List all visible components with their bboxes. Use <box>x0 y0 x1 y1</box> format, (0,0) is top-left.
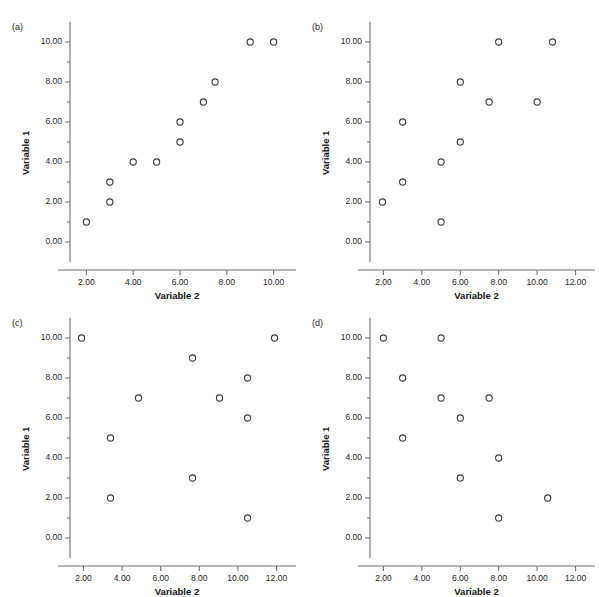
x-axis-tick-label: 6.00 <box>139 573 183 583</box>
data-point-marker <box>379 199 385 205</box>
y-axis-tick-label: 10.00 <box>316 36 362 46</box>
data-point-marker <box>400 119 406 125</box>
data-point-marker <box>244 415 250 421</box>
data-point-marker <box>83 219 89 225</box>
y-axis-tick-label: 0.00 <box>16 236 62 246</box>
data-point-marker <box>244 375 250 381</box>
data-point-marker <box>496 455 502 461</box>
x-axis-tick-label: 10.00 <box>515 277 559 287</box>
x-axis-tick-label: 8.00 <box>205 277 249 287</box>
data-point-marker <box>130 159 136 165</box>
x-axis-tick-label: 6.00 <box>438 277 482 287</box>
x-axis-tick-label: 6.00 <box>158 277 202 287</box>
y-axis-tick-label: 8.00 <box>16 372 62 382</box>
x-axis-tick-label: 12.00 <box>254 573 298 583</box>
y-axis-title: Variable 1 <box>20 427 31 471</box>
scatter-panel-c: (c)0.002.004.006.008.0010.002.004.006.00… <box>0 296 300 592</box>
y-axis-tick-label: 8.00 <box>16 76 62 86</box>
data-point-marker <box>200 99 206 105</box>
x-axis-tick-label: 2.00 <box>64 277 108 287</box>
y-axis-tick-label: 6.00 <box>16 116 62 126</box>
x-axis-tick-label: 2.00 <box>361 573 405 583</box>
data-point-marker <box>496 515 502 521</box>
data-point-marker <box>78 335 84 341</box>
x-axis-tick-label: 4.00 <box>111 277 155 287</box>
data-point-marker <box>438 159 444 165</box>
data-point-marker <box>457 79 463 85</box>
y-axis-tick-label: 0.00 <box>316 236 362 246</box>
data-point-marker <box>549 39 555 45</box>
x-axis-tick-label: 8.00 <box>177 573 221 583</box>
data-point-marker <box>496 39 502 45</box>
data-point-marker <box>457 139 463 145</box>
data-point-marker <box>212 79 218 85</box>
data-point-marker <box>534 99 540 105</box>
x-axis-tick-label: 8.00 <box>477 277 521 287</box>
x-axis-tick-label: 10.00 <box>515 573 559 583</box>
x-axis-tick-label: 8.00 <box>477 573 521 583</box>
y-axis-tick-label: 0.00 <box>316 532 362 542</box>
data-point-marker <box>438 395 444 401</box>
data-point-marker <box>189 355 195 361</box>
x-axis-tick-label: 6.00 <box>438 573 482 583</box>
x-axis-tick-label: 4.00 <box>400 277 444 287</box>
x-axis-tick-label: 12.00 <box>554 277 598 287</box>
y-axis-tick-label: 2.00 <box>316 492 362 502</box>
y-axis-tick-label: 10.00 <box>316 332 362 342</box>
x-axis-tick-label: 4.00 <box>400 573 444 583</box>
y-axis-tick-label: 2.00 <box>16 492 62 502</box>
x-axis-tick-label: 4.00 <box>100 573 144 583</box>
data-point-marker <box>244 515 250 521</box>
data-point-marker <box>107 495 113 501</box>
data-point-marker <box>177 139 183 145</box>
y-axis-title: Variable 1 <box>20 131 31 175</box>
x-axis-tick-label: 10.00 <box>216 573 260 583</box>
data-point-marker <box>271 335 277 341</box>
data-point-marker <box>154 159 160 165</box>
data-point-marker <box>545 495 551 501</box>
scatter-panel-a: (a)0.002.004.006.008.0010.002.004.006.00… <box>0 0 300 296</box>
x-axis-tick-label: 10.00 <box>252 277 296 287</box>
data-point-marker <box>107 199 113 205</box>
x-axis-title: Variable 2 <box>358 586 595 597</box>
y-axis-tick-label: 2.00 <box>16 196 62 206</box>
data-point-marker <box>400 435 406 441</box>
data-point-marker <box>438 219 444 225</box>
data-point-marker <box>107 179 113 185</box>
data-point-marker <box>135 395 141 401</box>
x-axis-tick-label: 12.00 <box>554 573 598 583</box>
data-point-marker <box>438 335 444 341</box>
y-axis-tick-label: 6.00 <box>316 116 362 126</box>
data-point-marker <box>486 395 492 401</box>
data-point-marker <box>107 435 113 441</box>
data-point-marker <box>247 39 253 45</box>
y-axis-tick-label: 6.00 <box>16 412 62 422</box>
x-axis-tick-label: 2.00 <box>62 573 106 583</box>
data-point-marker <box>380 335 386 341</box>
data-point-marker <box>177 119 183 125</box>
x-axis-tick-label: 2.00 <box>361 277 405 287</box>
y-axis-tick-label: 10.00 <box>16 36 62 46</box>
data-point-marker <box>271 39 277 45</box>
y-axis-title: Variable 1 <box>320 131 331 175</box>
data-point-marker <box>457 415 463 421</box>
data-point-marker <box>400 179 406 185</box>
y-axis-tick-label: 8.00 <box>316 76 362 86</box>
y-axis-tick-label: 8.00 <box>316 372 362 382</box>
data-point-marker <box>189 475 195 481</box>
y-axis-tick-label: 2.00 <box>316 196 362 206</box>
data-point-marker <box>216 395 222 401</box>
y-axis-tick-label: 0.00 <box>16 532 62 542</box>
scatter-panel-d: (d)0.002.004.006.008.0010.002.004.006.00… <box>300 296 599 592</box>
x-axis-title: Variable 2 <box>58 586 296 597</box>
y-axis-title: Variable 1 <box>320 427 331 471</box>
data-point-marker <box>400 375 406 381</box>
y-axis-tick-label: 10.00 <box>16 332 62 342</box>
data-point-marker <box>457 475 463 481</box>
scatter-panel-b: (b)0.002.004.006.008.0010.002.004.006.00… <box>300 0 599 296</box>
y-axis-tick-label: 6.00 <box>316 412 362 422</box>
data-point-marker <box>486 99 492 105</box>
